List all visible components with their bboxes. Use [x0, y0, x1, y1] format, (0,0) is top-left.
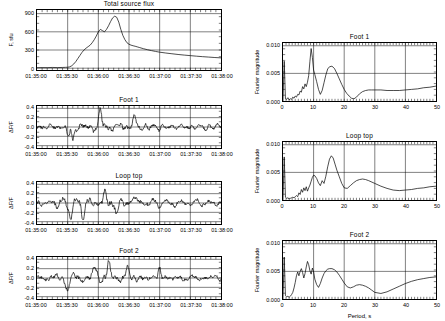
x-tick-label: 01:36:00 [87, 302, 108, 308]
y-tick-label: -0.4 [10, 144, 34, 150]
y-tick-label: 0.0 [10, 275, 34, 281]
y-axis-label: F, sfu [8, 33, 14, 46]
x-tick-label: 40 [403, 104, 409, 110]
x-tick-label: 01:35:30 [56, 73, 77, 79]
y-tick-label: 0.010 [256, 141, 280, 147]
plot-area [282, 42, 437, 102]
y-tick-label: 0.010 [256, 42, 280, 48]
y-tick-label: 0.4 [10, 255, 34, 261]
x-tick-label: 01:35:00 [25, 73, 46, 79]
x-tick-label: 50 [434, 203, 440, 209]
plot-area [282, 240, 437, 300]
x-tick-label: 01:35:30 [56, 151, 77, 157]
figure-root: Total source fluxF, sfu030060090001:35:0… [0, 0, 445, 321]
x-tick-label: 20 [341, 104, 347, 110]
y-tick-label: 0.000 [256, 198, 280, 204]
x-tick-label: 40 [403, 203, 409, 209]
x-tick-label: 01:38:00 [211, 73, 232, 79]
y-tick-label: 0.010 [256, 240, 280, 246]
panel-title: Foot 1 [282, 33, 437, 41]
y-tick-label: 0.0 [10, 200, 34, 206]
x-tick-label: 01:35:30 [56, 302, 77, 308]
plot-area [282, 141, 437, 201]
x-tick-label: 30 [372, 203, 378, 209]
y-tick-label: 0.000 [256, 99, 280, 105]
x-tick-label: 01:36:00 [87, 151, 108, 157]
y-tick-label: 600 [10, 29, 34, 35]
x-tick-label: 01:37:30 [180, 227, 201, 233]
x-tick-label: 01:37:30 [180, 151, 201, 157]
x-tick-label: 01:36:30 [118, 302, 139, 308]
plot-area [36, 181, 222, 225]
data-curve [283, 156, 436, 200]
x-tick-label: 30 [372, 104, 378, 110]
x-tick-label: 30 [372, 302, 378, 308]
panel-title: Total source flux [36, 0, 222, 8]
y-tick-label: -0.4 [10, 295, 34, 301]
x-tick-label: 01:38:00 [211, 151, 232, 157]
y-tick-label: 0.0 [10, 124, 34, 130]
x-tick-label: 01:37:30 [180, 302, 201, 308]
plot-area [36, 256, 222, 300]
panel-title: Loop top [36, 172, 222, 180]
y-tick-label: 0.005 [256, 169, 280, 175]
plot-area [36, 105, 222, 149]
panel-title: Foot 2 [36, 247, 222, 255]
y-tick-label: 900 [10, 10, 34, 16]
x-tick-label: 01:35:00 [25, 151, 46, 157]
x-tick-label: 0 [280, 203, 283, 209]
x-tick-label: 01:35:00 [25, 227, 46, 233]
x-tick-label: 01:37:30 [180, 73, 201, 79]
x-tick-label: 40 [403, 302, 409, 308]
x-tick-label: 10 [310, 302, 316, 308]
y-tick-label: 0.2 [10, 114, 34, 120]
x-tick-label: 01:37:00 [149, 302, 170, 308]
y-tick-label: 0.005 [256, 70, 280, 76]
x-tick-label: 50 [434, 302, 440, 308]
x-tick-label: 01:36:00 [87, 227, 108, 233]
panel-title: Loop top [282, 132, 437, 140]
x-tick-label: 01:38:00 [211, 227, 232, 233]
y-tick-label: 0 [10, 66, 34, 72]
y-tick-label: 0.4 [10, 180, 34, 186]
y-tick-label: 0.2 [10, 265, 34, 271]
x-tick-label: 01:36:30 [118, 73, 139, 79]
panel-title: Foot 1 [36, 96, 222, 104]
y-tick-label: 0.4 [10, 104, 34, 110]
x-tick-label: 50 [434, 104, 440, 110]
y-tick-label: -0.2 [10, 285, 34, 291]
x-tick-label: 10 [310, 104, 316, 110]
x-tick-label: 01:35:00 [25, 302, 46, 308]
x-axis-label: Period, s [282, 313, 437, 319]
y-tick-label: 0.000 [256, 297, 280, 303]
data-curve [283, 49, 436, 101]
data-curve [283, 257, 436, 299]
y-tick-label: 300 [10, 47, 34, 53]
x-tick-label: 01:37:00 [149, 73, 170, 79]
x-tick-label: 0 [280, 302, 283, 308]
x-tick-label: 01:36:30 [118, 227, 139, 233]
y-tick-label: -0.4 [10, 220, 34, 226]
x-tick-label: 10 [310, 203, 316, 209]
y-tick-label: 0.005 [256, 268, 280, 274]
x-tick-label: 01:37:00 [149, 151, 170, 157]
x-tick-label: 0 [280, 104, 283, 110]
x-tick-label: 01:36:00 [87, 73, 108, 79]
x-tick-label: 01:36:30 [118, 151, 139, 157]
x-tick-label: 20 [341, 302, 347, 308]
y-tick-label: 0.2 [10, 190, 34, 196]
x-tick-label: 01:35:30 [56, 227, 77, 233]
x-tick-label: 01:38:00 [211, 302, 232, 308]
y-tick-label: -0.2 [10, 210, 34, 216]
x-tick-label: 20 [341, 203, 347, 209]
y-tick-label: -0.2 [10, 134, 34, 140]
plot-area [36, 9, 222, 71]
x-tick-label: 01:37:00 [149, 227, 170, 233]
panel-title: Foot 2 [282, 231, 437, 239]
